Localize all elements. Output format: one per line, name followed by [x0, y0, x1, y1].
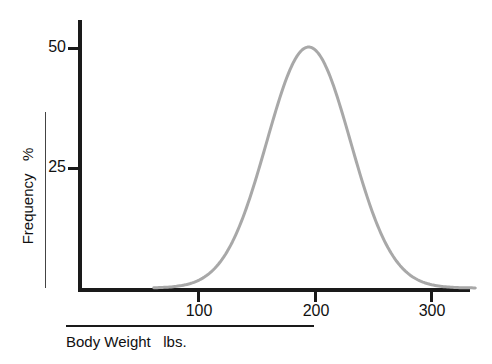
y-axis-label-25: 25 — [38, 159, 66, 175]
y-axis-title-rule — [45, 112, 46, 288]
y-axis-tick-50 — [68, 47, 79, 50]
x-axis-tick-300 — [430, 291, 433, 302]
x-axis-line — [78, 288, 470, 292]
chart-figure: 50 25 100 200 300 Frequency % Body Weigh… — [0, 0, 492, 364]
y-axis-tick-25 — [68, 167, 79, 170]
x-axis-title-rule — [66, 325, 314, 327]
x-axis-label-100: 100 — [174, 303, 224, 319]
x-axis-tick-100 — [197, 291, 200, 302]
x-axis-label-200: 200 — [291, 303, 341, 319]
distribution-curve — [154, 47, 476, 288]
x-axis-tick-200 — [314, 291, 317, 302]
x-axis-title: Body Weight lbs. — [66, 331, 187, 353]
y-axis-label-50: 50 — [38, 39, 66, 55]
y-axis-title: Frequency % — [17, 116, 39, 276]
y-axis-line — [78, 20, 82, 292]
x-axis-label-300: 300 — [407, 303, 457, 319]
